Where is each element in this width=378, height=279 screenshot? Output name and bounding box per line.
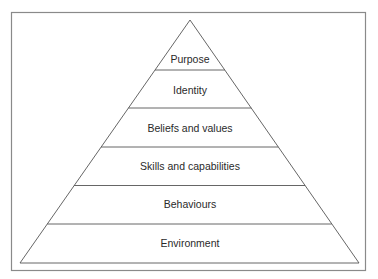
level-skills-and-capabilities: Skills and capabilities	[140, 160, 240, 172]
level-environment: Environment	[161, 237, 220, 249]
level-purpose: Purpose	[170, 53, 209, 65]
level-beliefs-and-values: Beliefs and values	[147, 122, 232, 134]
pyramid-diagram: Purpose Identity Beliefs and values Skil…	[0, 0, 378, 279]
level-identity: Identity	[173, 84, 208, 96]
level-behaviours: Behaviours	[164, 198, 217, 210]
diagram-frame	[12, 13, 366, 271]
